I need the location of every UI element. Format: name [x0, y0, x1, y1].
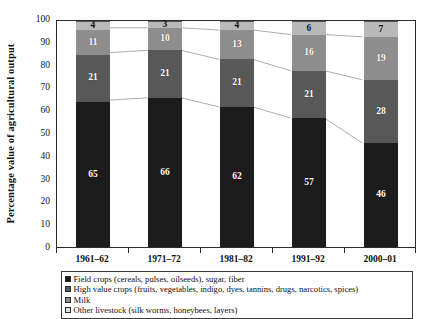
x-axis-tick-label: 1961–62 — [75, 253, 108, 265]
y-axis-tick-label: 50 — [20, 129, 50, 139]
x-axis-tick-label: 2000–01 — [363, 253, 396, 265]
legend-item[interactable]: High value crops (fruits, vegetables, in… — [65, 284, 409, 295]
bar-segment[interactable]: 6 — [292, 21, 326, 35]
bar-segment[interactable]: 19 — [364, 37, 398, 80]
bar-segment-value-label: 65 — [88, 170, 98, 180]
bar-segment-value-label: 11 — [89, 38, 98, 48]
y-axis-tick-label: 90 — [20, 38, 50, 48]
legend-item-label: Other livestock (silk worms, honeybees, … — [74, 305, 238, 315]
bar-segment-value-label: 57 — [304, 178, 314, 188]
bar-segment[interactable]: 66 — [148, 98, 182, 247]
x-axis-tick-label: 1981–82 — [219, 253, 252, 265]
legend-item-label: High value crops (fruits, vegetables, in… — [74, 284, 359, 294]
bar-group: 6521114 — [76, 21, 110, 247]
legend-item[interactable]: Field crops (cereals, pulses, oilseeds),… — [65, 274, 409, 285]
stacked-bar[interactable]: 6521114 — [76, 21, 110, 247]
bar-segment[interactable]: 21 — [292, 71, 326, 118]
bar-segment[interactable]: 3 — [148, 21, 182, 28]
bar-segment-value-label: 7 — [379, 25, 384, 35]
stack-connector-line — [324, 35, 362, 37]
y-axis-tick-label: 60 — [20, 106, 50, 116]
bar-segment-value-label: 4 — [235, 21, 240, 31]
bar-segment[interactable]: 62 — [220, 107, 254, 247]
stacked-bar[interactable]: 5721166 — [292, 21, 326, 247]
x-axis-tick-labels: 1961–621971–721981–821991–922000–01 — [56, 253, 416, 267]
stack-connector-line — [181, 98, 219, 107]
legend-swatch-other-livestock — [65, 307, 71, 313]
y-axis-tick-label: 30 — [20, 175, 50, 185]
bar-segment[interactable]: 21 — [76, 55, 110, 102]
bar-segment[interactable]: 13 — [220, 30, 254, 59]
stack-connector-line — [181, 50, 219, 59]
bar-segment-value-label: 4 — [91, 21, 96, 31]
bar-segment-value-label: 21 — [88, 73, 98, 83]
bar-segment-value-label: 10 — [160, 34, 170, 44]
bar-group: 5721166 — [292, 21, 326, 247]
stack-connector-line — [253, 59, 291, 70]
bar-segment-value-label: 6 — [307, 24, 312, 34]
legend-item-label: Field crops (cereals, pulses, oilseeds),… — [74, 274, 245, 284]
bar-group: 6221134 — [220, 21, 254, 247]
stack-connector-line — [253, 107, 291, 118]
y-axis-tick-label: 80 — [20, 61, 50, 71]
bar-segment[interactable]: 65 — [76, 102, 110, 247]
bar-segment-value-label: 19 — [376, 54, 386, 64]
bar-segment-value-label: 16 — [304, 48, 314, 58]
bar-segment-value-label: 46 — [376, 190, 386, 200]
x-axis-tick-label: 1971–72 — [147, 253, 180, 265]
y-axis-tick-label: 20 — [20, 198, 50, 208]
bar-segment[interactable]: 57 — [292, 118, 326, 247]
y-axis-tick-label: 100 — [20, 15, 50, 25]
legend-swatch-field-crops — [65, 276, 71, 282]
bar-segment-value-label: 21 — [304, 90, 314, 100]
y-axis-tick-label: 0 — [20, 243, 50, 253]
bar-group: 6621103 — [148, 21, 182, 247]
bar-segment[interactable]: 4 — [220, 21, 254, 30]
legend-item-label: Milk — [74, 295, 91, 305]
bar-segment[interactable]: 11 — [76, 30, 110, 55]
bar-segment[interactable]: 21 — [148, 50, 182, 97]
y-axis-title-text: Percentage value of agricultural output — [6, 43, 17, 223]
bar-segment-value-label: 21 — [160, 69, 170, 79]
stack-connector-line — [253, 30, 291, 35]
bar-segment-value-label: 62 — [232, 172, 242, 182]
y-axis-tick-label: 40 — [20, 152, 50, 162]
stacked-bar[interactable]: 6221134 — [220, 21, 254, 247]
bar-group: 4628197 — [364, 21, 398, 247]
legend-item[interactable]: Milk — [65, 295, 409, 306]
bar-segment-value-label: 21 — [232, 78, 242, 88]
bar-segment-value-label: 13 — [232, 40, 242, 50]
stacked-bar[interactable]: 4628197 — [364, 21, 398, 247]
bar-segment[interactable]: 28 — [364, 80, 398, 143]
x-axis-tick-label: 1991–92 — [291, 253, 324, 265]
bar-segment[interactable]: 46 — [364, 143, 398, 247]
bar-segment[interactable]: 4 — [76, 21, 110, 30]
chart-legend: Field crops (cereals, pulses, oilseeds),… — [61, 271, 413, 319]
stack-connector-line — [110, 50, 148, 52]
bar-segment[interactable]: 21 — [220, 59, 254, 106]
y-axis-title: Percentage value of agricultural output — [2, 18, 20, 248]
legend-item[interactable]: Other livestock (silk worms, honeybees, … — [65, 305, 409, 316]
plot-inner: 65211146621103622113457211664628197 — [57, 21, 415, 247]
bar-segment[interactable]: 10 — [148, 28, 182, 51]
bar-segment[interactable]: 7 — [364, 21, 398, 37]
bar-segment-value-label: 28 — [376, 107, 386, 117]
legend-swatch-milk — [65, 297, 71, 303]
plot-area: 65211146621103622113457211664628197 — [56, 20, 416, 248]
stack-connector-line — [324, 71, 362, 80]
y-axis-tick-labels: 0102030405060708090100 — [20, 20, 50, 248]
stacked-bar[interactable]: 6621103 — [148, 21, 182, 247]
bar-segment[interactable]: 16 — [292, 35, 326, 71]
stack-connector-line — [324, 118, 362, 143]
bar-segment-value-label: 3 — [163, 20, 168, 30]
legend-swatch-high-value-crops — [65, 286, 71, 292]
stack-connector-line — [181, 28, 219, 30]
bar-segment-value-label: 66 — [160, 168, 170, 178]
y-axis-tick-label: 10 — [20, 220, 50, 230]
y-axis-tick-label: 70 — [20, 84, 50, 94]
stack-connector-line — [110, 98, 148, 100]
